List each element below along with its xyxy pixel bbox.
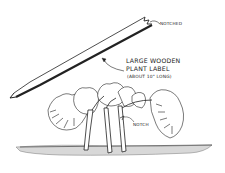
illustration-canvas: NOTCHED LARGE WOODEN PLANT LABEL (ABOUT … (0, 0, 225, 173)
plant-label-drawing (0, 0, 225, 173)
notched-label: NOTCHED (160, 22, 182, 26)
notch-label: NOTCH (133, 123, 149, 127)
plant-leaves-icon (48, 83, 184, 138)
soil-icon (16, 145, 212, 155)
main-label-line2: PLANT LABEL (126, 66, 170, 72)
main-label-line3: (ABOUT 10" LONG) (127, 75, 172, 79)
main-label-line1: LARGE WOODEN (126, 58, 180, 64)
